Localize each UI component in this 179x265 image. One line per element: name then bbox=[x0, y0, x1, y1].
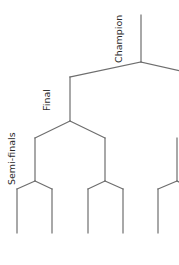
champion-branch-right bbox=[141, 62, 179, 71]
semi-1-branch-left bbox=[17, 181, 35, 189]
final-label: Final bbox=[41, 89, 52, 111]
champion-branch-left bbox=[70, 62, 141, 77]
semi-1-branch-right bbox=[35, 181, 52, 189]
leaf-lines bbox=[17, 189, 158, 233]
champion-label: Champion bbox=[113, 15, 124, 63]
semi-3-branch-right bbox=[177, 181, 179, 185]
tournament-bracket-diagram: Champion Final Semi-finals bbox=[0, 0, 179, 265]
semi-finals-label: Semi-finals bbox=[6, 132, 17, 185]
semi-2-branch-left bbox=[88, 181, 105, 189]
champion-node bbox=[70, 15, 179, 77]
semi-3-branch-left bbox=[158, 181, 177, 189]
semi-final-node-3 bbox=[158, 138, 179, 189]
final-branch-left bbox=[35, 121, 70, 138]
semi-final-node-1 bbox=[17, 138, 52, 189]
semi-final-node-2 bbox=[88, 138, 123, 189]
semi-2-branch-right bbox=[105, 181, 123, 189]
final-branch-right bbox=[70, 121, 105, 138]
